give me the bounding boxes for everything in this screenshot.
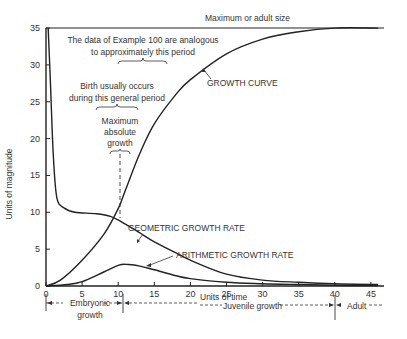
x-tick-label: 10 bbox=[113, 289, 123, 299]
arithmetic-rate-arrowhead bbox=[146, 263, 151, 267]
example-annotation-line1: The data of Example 100 are analogous bbox=[67, 35, 218, 45]
y-axis-ticks: 05101520253035 bbox=[30, 23, 50, 291]
growth-curve bbox=[46, 28, 378, 286]
growth-curve-label: GROWTH CURVE bbox=[207, 78, 278, 88]
birth-annotation-line1: Birth usually occurs bbox=[80, 81, 154, 91]
x-tick-label: 20 bbox=[185, 289, 195, 299]
juvenile-label: Juvenile growth bbox=[223, 301, 282, 311]
y-tick-label: 0 bbox=[35, 281, 40, 291]
geometric-growth-rate-curve bbox=[48, 28, 378, 284]
example-annotation-line2: to approximately this period bbox=[91, 47, 195, 57]
y-tick-label: 35 bbox=[30, 23, 40, 33]
geometric-rate-arrow bbox=[138, 234, 143, 241]
geometric-rate-arrowhead bbox=[137, 239, 140, 243]
x-tick-label: 15 bbox=[149, 289, 159, 299]
max-growth-line2: absolute bbox=[104, 127, 136, 137]
embryonic-label-line2: growth bbox=[77, 310, 103, 320]
max-growth-line1: Maximum bbox=[102, 116, 139, 126]
adult-label: Adult bbox=[347, 301, 367, 311]
y-tick-label: 5 bbox=[35, 244, 40, 254]
y-tick-label: 10 bbox=[30, 207, 40, 217]
max-growth-brace bbox=[110, 149, 130, 154]
birth-annotation-line2: during this general period bbox=[69, 93, 165, 103]
example-brace bbox=[118, 58, 167, 64]
x-tick-label: 30 bbox=[258, 289, 268, 299]
birth-brace bbox=[96, 104, 138, 110]
y-tick-label: 25 bbox=[30, 97, 40, 107]
y-tick-label: 30 bbox=[30, 60, 40, 70]
geometric-rate-label: GEOMETRIC GROWTH RATE bbox=[128, 223, 245, 233]
y-tick-label: 20 bbox=[30, 134, 40, 144]
axes bbox=[46, 28, 384, 286]
arithmetic-rate-arrow bbox=[150, 256, 173, 265]
arithmetic-growth-rate-curve bbox=[46, 264, 378, 286]
arithmetic-rate-label: ARITHMETIC GROWTH RATE bbox=[176, 250, 294, 260]
max-size-label: Maximum or adult size bbox=[205, 13, 290, 23]
x-tick-label: 35 bbox=[294, 289, 304, 299]
growth-chart: 05101520253035 051015202530354045 Maximu… bbox=[0, 0, 407, 339]
max-growth-line3: growth bbox=[107, 138, 133, 148]
y-tick-label: 15 bbox=[30, 170, 40, 180]
x-tick-label: 45 bbox=[366, 289, 376, 299]
y-axis-label: Units of magnitude bbox=[4, 148, 14, 219]
